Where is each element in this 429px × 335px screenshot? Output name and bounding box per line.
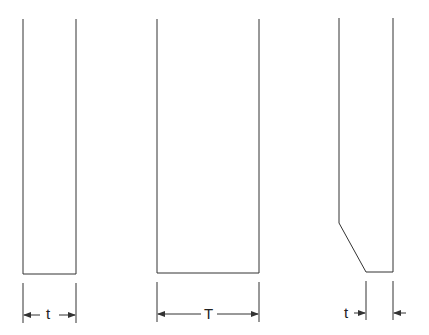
chamfered-plate-outline <box>339 18 393 272</box>
thick-plate-thickness-label: T <box>203 306 214 321</box>
chamfered-plate-thickness-label: t <box>343 305 349 320</box>
thin-plate-thickness-label: t <box>45 306 51 321</box>
thick-plate-outline <box>157 19 259 273</box>
thin-plate-outline <box>23 19 76 274</box>
diagram-canvas <box>0 0 429 335</box>
chamfered-plate-dimension <box>354 281 406 320</box>
